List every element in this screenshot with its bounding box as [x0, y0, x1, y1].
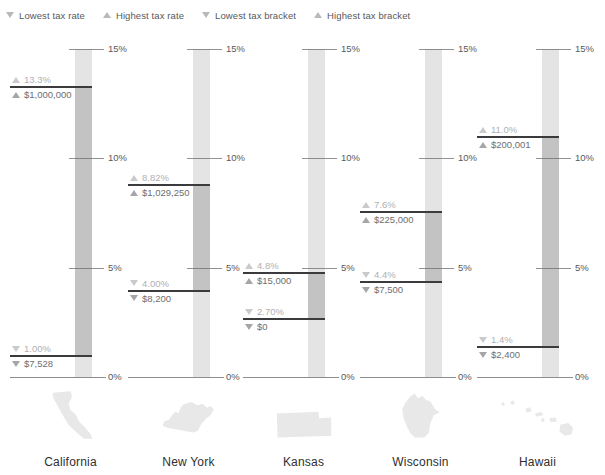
- bar-range-segment: [193, 184, 210, 289]
- value: $1,000,000: [24, 90, 72, 100]
- y-axis-label-15%: 15%: [108, 44, 127, 54]
- y-axis-tick-15%: [302, 49, 337, 50]
- lowest-rate-label: 1.00%: [12, 344, 51, 354]
- triangle-up-icon: [12, 92, 20, 98]
- y-axis-label-15%: 15%: [341, 44, 360, 54]
- value: $15,000: [257, 276, 291, 286]
- triangle-up-icon: [12, 77, 20, 83]
- lowest-rule: [128, 290, 210, 292]
- state-name-label: Wisconsin: [360, 455, 481, 469]
- zero-baseline: [243, 377, 339, 378]
- highest-rule: [360, 211, 442, 213]
- y-axis-label-5%: 5%: [341, 263, 355, 273]
- value: 2.70%: [257, 307, 284, 317]
- highest-rule: [243, 272, 325, 274]
- value: $200,001: [491, 140, 531, 150]
- lowest-bracket-label: $8,200: [130, 294, 171, 304]
- highest-rate-label: 4.8%: [245, 261, 279, 271]
- lowest-rate-label: 1.4%: [479, 335, 513, 345]
- triangle-down-icon: [130, 280, 138, 286]
- triangle-down-icon: [245, 324, 253, 330]
- y-axis-tick-5%: [69, 268, 104, 269]
- y-axis-label-0%: 0%: [458, 372, 472, 382]
- value: $2,400: [491, 350, 520, 360]
- y-axis-label-15%: 15%: [458, 44, 477, 54]
- y-axis-label-10%: 10%: [458, 153, 477, 163]
- value: 1.00%: [24, 344, 51, 354]
- y-axis-tick-10%: [69, 158, 104, 159]
- y-axis-label-10%: 10%: [341, 153, 360, 163]
- highest-bracket-label: $1,029,250: [130, 188, 190, 198]
- triangle-up-icon: [362, 217, 370, 223]
- triangle-down-icon: [479, 337, 487, 343]
- highest-bracket-label: $225,000: [362, 215, 414, 225]
- state-silhouette-california-icon: [10, 387, 131, 439]
- state-column-kansas: 0%5%10%15%4.8%$15,0002.70%$0Kansas: [243, 0, 364, 475]
- triangle-down-icon: [362, 287, 370, 293]
- state-name-label: Hawaii: [477, 455, 598, 469]
- y-axis-label-5%: 5%: [108, 263, 122, 273]
- triangle-up-icon: [245, 263, 253, 269]
- value: 13.3%: [24, 75, 51, 85]
- triangle-up-icon: [362, 202, 370, 208]
- triangle-down-icon: [362, 272, 370, 278]
- highest-rule: [477, 136, 559, 138]
- y-axis-label-5%: 5%: [458, 263, 472, 273]
- highest-rule: [10, 86, 92, 88]
- triangle-up-icon: [130, 190, 138, 196]
- value: $7,528: [24, 359, 53, 369]
- lowest-bracket-label: $2,400: [479, 350, 520, 360]
- state-silhouette-hawaii-icon: [477, 387, 598, 439]
- lowest-rate-label: 2.70%: [245, 307, 284, 317]
- y-axis-label-10%: 10%: [108, 153, 127, 163]
- triangle-up-icon: [245, 278, 253, 284]
- y-axis-label-0%: 0%: [341, 372, 355, 382]
- state-silhouette-kansas-icon: [243, 387, 364, 439]
- lowest-bracket-label: $7,500: [362, 285, 403, 295]
- triangle-up-icon: [130, 175, 138, 181]
- triangle-down-icon: [12, 346, 20, 352]
- triangle-down-icon: [479, 352, 487, 358]
- value: $8,200: [142, 294, 171, 304]
- value: 4.8%: [257, 261, 279, 271]
- y-axis-tick-5%: [187, 268, 222, 269]
- state-column-wisconsin: 0%5%10%15%7.6%$225,0004.4%$7,500Wisconsi…: [360, 0, 481, 475]
- lowest-bracket-label: $0: [245, 322, 268, 332]
- bar-range-segment: [542, 136, 559, 346]
- value: 11.0%: [491, 125, 517, 135]
- value: 8.82%: [142, 173, 169, 183]
- lowest-rule: [477, 346, 559, 348]
- highest-bracket-label: $1,000,000: [12, 90, 72, 100]
- lowest-rate-label: 4.4%: [362, 270, 396, 280]
- highest-rate-label: 13.3%: [12, 75, 51, 85]
- y-axis-label-0%: 0%: [108, 372, 122, 382]
- zero-baseline: [128, 377, 224, 378]
- value: 1.4%: [491, 335, 513, 345]
- y-axis-label-5%: 5%: [575, 263, 589, 273]
- y-axis-tick-10%: [419, 158, 454, 159]
- y-axis-tick-15%: [187, 49, 222, 50]
- y-axis-tick-15%: [419, 49, 454, 50]
- lowest-rate-label: 4.00%: [130, 279, 169, 289]
- highest-bracket-label: $15,000: [245, 276, 291, 286]
- bar-track: [308, 49, 325, 377]
- state-column-hawaii: 0%5%10%15%11.0%$200,0011.4%$2,400Hawaii: [477, 0, 598, 475]
- value: $7,500: [374, 285, 403, 295]
- y-axis-label-15%: 15%: [575, 44, 594, 54]
- triangle-up-icon: [479, 142, 487, 148]
- y-axis-label-10%: 10%: [575, 153, 594, 163]
- triangle-down-icon: [245, 309, 253, 315]
- value: $0: [257, 322, 268, 332]
- y-axis-tick-5%: [302, 268, 337, 269]
- state-column-new-york: 0%5%10%15%8.82%$1,029,2504.00%$8,200New …: [128, 0, 249, 475]
- highest-bracket-label: $200,001: [479, 140, 531, 150]
- highest-rate-label: 7.6%: [362, 200, 396, 210]
- y-axis-label-0%: 0%: [226, 372, 240, 382]
- tax-rate-range-chart: 0%5%10%15%13.3%$1,000,0001.00%$7,528Cali…: [0, 0, 605, 475]
- lowest-rule: [10, 355, 92, 357]
- y-axis-tick-10%: [302, 158, 337, 159]
- y-axis-tick-5%: [536, 268, 571, 269]
- y-axis-tick-15%: [536, 49, 571, 50]
- bar-range-segment: [425, 211, 442, 281]
- value: 7.6%: [374, 200, 396, 210]
